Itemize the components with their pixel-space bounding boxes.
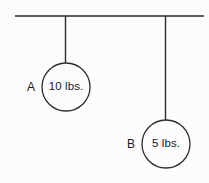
mass-value-a: 10 lbs. xyxy=(49,81,84,93)
object-label-a: A xyxy=(27,81,35,93)
physics-figure: A 10 lbs. B 5 lbs. xyxy=(0,0,209,183)
mass-value-b: 5 lbs. xyxy=(152,138,180,150)
object-label-b: B xyxy=(127,138,135,150)
